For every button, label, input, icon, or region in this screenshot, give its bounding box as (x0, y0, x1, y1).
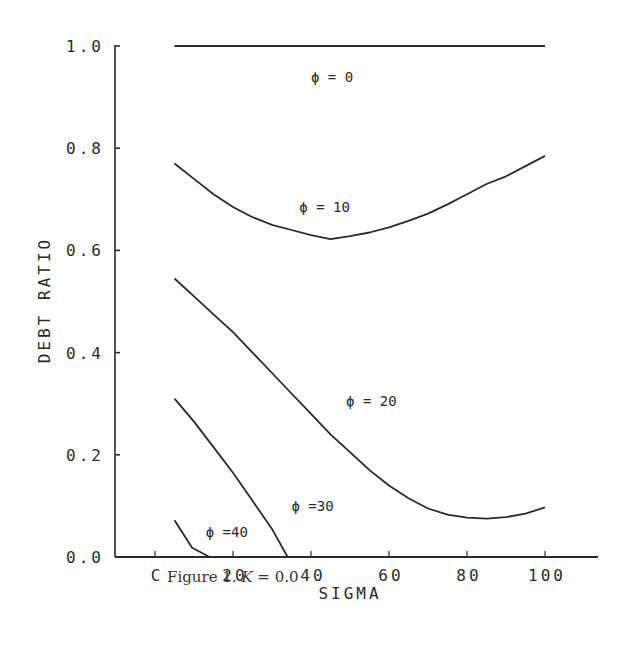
curve-label: ϕ = 20 (346, 393, 397, 409)
x-tick-label: 40 (300, 566, 325, 585)
series-lines (175, 46, 546, 557)
caption-suffix: = 0.0 (253, 568, 299, 586)
curve-label: ϕ = 10 (299, 199, 350, 215)
x-tick-label: C (151, 566, 164, 585)
series-line-phi-10 (175, 156, 546, 239)
x-tick-label: 60 (378, 566, 403, 585)
y-axis-title: DEBT RATIO (35, 237, 54, 363)
x-axis-title: SIGMA (318, 584, 381, 603)
y-tick-label: 0.8 (66, 139, 104, 158)
y-tick-label: 0.4 (66, 344, 104, 363)
figure-caption: Figure 1. K = 0.0 (167, 568, 299, 586)
caption-prefix: Figure 1. (167, 568, 241, 586)
x-tick-label: 80 (456, 566, 481, 585)
y-tick-label: 0.2 (66, 446, 104, 465)
axes: 0.00.20.40.60.81.0C20406080100SIGMADEBT … (35, 37, 598, 603)
caption-variable: K (241, 568, 252, 586)
debt-ratio-chart: 0.00.20.40.60.81.0C20406080100SIGMADEBT … (0, 0, 625, 653)
curve-label: ϕ = 0 (311, 69, 353, 85)
y-tick-label: 0.0 (66, 548, 104, 567)
curve-label: ϕ =40 (206, 524, 248, 540)
x-tick-label: 100 (528, 566, 566, 585)
y-tick-label: 0.6 (66, 241, 104, 260)
curve-label: ϕ =30 (292, 498, 334, 514)
series-line-phi-40 (175, 520, 210, 557)
y-tick-label: 1.0 (66, 37, 104, 56)
